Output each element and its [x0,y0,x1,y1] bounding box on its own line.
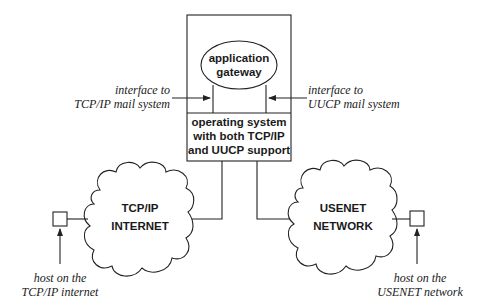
cloud-label-1: TCP/IP [121,202,158,214]
usenet-network-cloud: USENET NETWORK [288,160,397,274]
ellipse-label-1: application [209,52,270,64]
usenet-host-label-2: USENET network [377,285,463,299]
cloud-label-2: NETWORK [313,220,373,232]
cloud-label-2: INTERNET [111,220,169,232]
left-interface-label-1: interface to [115,83,170,97]
right-interface-label-1: interface to [308,83,363,97]
os-label-2: with both TCP/IP [192,130,285,142]
usenet-host-label-1: host on the [394,271,447,285]
ellipse-label-2: gateway [216,66,262,78]
link-box-to-tcpip [192,161,222,219]
os-label-3: and UUCP support [188,144,290,156]
right-interface-label-2: UUCP mail system [308,97,400,111]
left-interface-label-2: TCP/IP mail system [74,97,170,111]
usenet-host-square [410,211,424,226]
application-gateway-ellipse [201,41,277,89]
mail-gateway-diagram: application gateway operating system wit… [0,0,478,307]
tcpip-host-label-1: host on the [34,271,87,285]
tcpip-host-square [53,212,67,226]
cloud-shape [288,160,397,274]
tcpip-host-label-2: TCP/IP internet [22,285,99,299]
cloud-label-1: USENET [320,202,367,214]
tcpip-internet-cloud: TCP/IP INTERNET [84,162,194,276]
gateway-machine: application gateway operating system wit… [187,15,291,161]
link-box-to-usenet [257,161,290,219]
os-label-1: operating system [191,116,286,128]
